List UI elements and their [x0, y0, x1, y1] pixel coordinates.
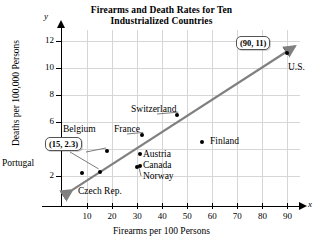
point-label-belgium: Belgium	[63, 124, 96, 134]
point-label-norway: Norway	[143, 171, 174, 181]
point-label-finland: Finland	[210, 136, 239, 146]
point-label-canada: Canada	[143, 160, 172, 170]
leader-belgium	[86, 148, 106, 152]
point-label-france: France	[114, 124, 140, 134]
data-point-canada	[138, 164, 142, 168]
point-label-us: U.S.	[288, 62, 305, 72]
trend-line-layer	[0, 0, 323, 243]
trend-line	[72, 46, 295, 190]
leader-czech-callout	[70, 152, 99, 169]
data-point-czech-rep	[98, 170, 102, 174]
point-label-czech: Czech Rep.	[78, 186, 122, 196]
leader-norway	[139, 168, 141, 176]
point-label-austria: Austria	[143, 149, 171, 159]
callout-us: (90, 11)	[236, 36, 270, 50]
callout-czech: (15, 2.3)	[45, 137, 82, 151]
point-label-switzerland: Switzerland	[131, 104, 176, 114]
point-label-portugal: Portugal	[2, 158, 34, 168]
